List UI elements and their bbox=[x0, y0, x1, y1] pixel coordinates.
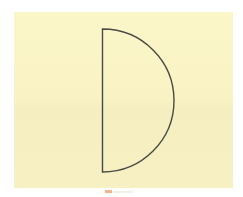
figure-caption-trace bbox=[113, 191, 133, 193]
semicircle-diagram bbox=[0, 0, 243, 197]
figure-page bbox=[0, 0, 243, 197]
semicircle-shape bbox=[103, 29, 175, 172]
figure-marker bbox=[105, 190, 112, 193]
